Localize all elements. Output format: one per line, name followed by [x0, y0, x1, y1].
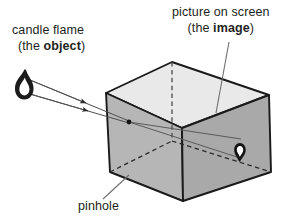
label-pinhole: pinhole — [78, 198, 119, 214]
label-object-paren-open: (the — [18, 39, 44, 53]
candle-flame-object-icon — [15, 69, 34, 99]
label-image-line1: picture on screen — [172, 4, 270, 20]
ray-outside-lower-arrow — [30, 94, 88, 111]
leader-line-pinhole — [103, 175, 129, 199]
label-picture-on-screen: picture on screen (the image) — [172, 4, 270, 36]
label-object-line2: (the object) — [12, 38, 85, 54]
label-image-line2: (the image) — [172, 20, 270, 36]
label-object-line1: candle flame — [12, 22, 85, 38]
pinhole-camera-diagram: candle flame (the object) picture on scr… — [0, 0, 288, 219]
label-image-paren-open: (the — [188, 21, 214, 35]
ray-outside-upper-arrow — [30, 80, 86, 103]
label-image-paren-close: ) — [250, 21, 254, 35]
label-image-keyword: image — [213, 21, 250, 35]
pinhole-point — [127, 120, 132, 125]
label-object-keyword: object — [44, 39, 81, 53]
label-object-paren-close: ) — [81, 39, 85, 53]
label-candle-flame-object: candle flame (the object) — [12, 22, 85, 54]
